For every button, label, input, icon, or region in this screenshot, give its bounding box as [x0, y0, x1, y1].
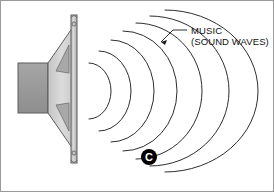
speaker-frame-bar — [71, 15, 77, 163]
figure-marker: C — [141, 149, 157, 165]
wave-arc-3 — [111, 40, 154, 142]
speaker-assembly — [18, 15, 77, 163]
callout-line-2: (SOUND WAVES) — [191, 36, 269, 47]
speaker-cone — [48, 27, 73, 149]
wave-arc-1 — [89, 63, 111, 119]
speaker-magnet — [18, 63, 48, 113]
figure-container: MUSIC (SOUND WAVES) C — [0, 0, 274, 192]
frame-bolt-bottom — [72, 151, 76, 155]
frame-bolt-top — [72, 22, 76, 26]
diagram-canvas: MUSIC (SOUND WAVES) C — [1, 1, 274, 192]
marker-label: C — [145, 151, 153, 163]
wave-arc-2 — [99, 51, 131, 131]
callout-line-1: MUSIC — [191, 25, 222, 36]
sound-wave-arcs — [89, 10, 258, 172]
